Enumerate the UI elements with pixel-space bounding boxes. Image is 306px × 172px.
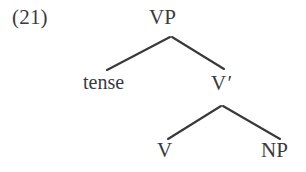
branch-vp-to-vbar xyxy=(172,37,224,69)
tree-node-v-bar-base: V xyxy=(211,71,226,95)
figure-canvas: (21) VP tense V′ V NP xyxy=(0,0,306,172)
branch-vp-to-tense xyxy=(107,37,170,70)
tree-node-np: NP xyxy=(261,140,288,161)
tree-node-tense: tense xyxy=(83,72,124,92)
tree-node-v-bar: V′ xyxy=(211,73,231,94)
tree-node-v: V xyxy=(157,140,172,161)
branch-vbar-to-np xyxy=(223,106,280,139)
tree-node-vp: VP xyxy=(149,7,176,28)
branch-vbar-to-v xyxy=(168,106,221,139)
prime-mark-icon: ′ xyxy=(226,71,231,95)
